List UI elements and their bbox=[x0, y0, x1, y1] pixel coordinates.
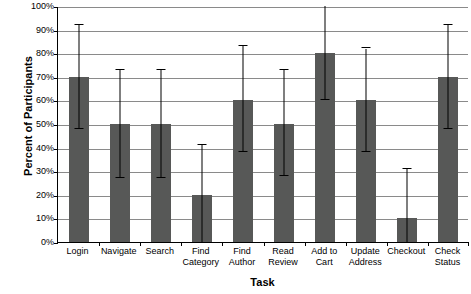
x-axis-tick-label: Read Review bbox=[263, 246, 304, 268]
error-bar bbox=[366, 49, 367, 153]
y-axis-tick-label: 60% bbox=[20, 96, 54, 105]
error-bar-cap-upper bbox=[115, 69, 124, 70]
bar-group bbox=[140, 7, 181, 242]
bar-group bbox=[387, 7, 428, 242]
x-axis-tick-label: Search bbox=[139, 246, 180, 257]
x-axis-tick-label: Add to Cart bbox=[304, 246, 345, 268]
y-axis-tick-labels: 0%10%20%30%40%50%60%70%80%90%100% bbox=[18, 0, 54, 294]
x-axis-tick-label: Check Status bbox=[427, 246, 468, 268]
bar-group bbox=[264, 7, 305, 242]
y-axis-tick-label: 0% bbox=[20, 238, 54, 247]
error-bar-cap-lower bbox=[115, 177, 124, 178]
bar-group bbox=[99, 7, 140, 242]
error-bar-cap-upper bbox=[156, 69, 165, 70]
error-bar bbox=[160, 70, 161, 179]
error-bar bbox=[448, 25, 449, 129]
x-axis-tick-label: Update Address bbox=[345, 246, 386, 268]
bar-group bbox=[428, 7, 469, 242]
x-axis-tick-label: Find Author bbox=[221, 246, 262, 268]
x-axis-tick-mark bbox=[468, 242, 469, 246]
bar-group bbox=[222, 7, 263, 242]
x-axis-tick-label: Find Category bbox=[180, 246, 221, 268]
error-bar bbox=[119, 70, 120, 179]
error-bar-cap-lower bbox=[321, 99, 330, 100]
plot-area bbox=[57, 7, 468, 243]
error-bar-cap-upper bbox=[238, 45, 247, 46]
error-bar-cap-lower bbox=[238, 151, 247, 152]
x-axis-tick-label: Navigate bbox=[98, 246, 139, 257]
error-bar-cap-lower bbox=[74, 128, 83, 129]
y-axis-tick-label: 90% bbox=[20, 26, 54, 35]
error-bar-cap-lower bbox=[444, 128, 453, 129]
error-bar-cap-upper bbox=[362, 47, 371, 48]
bar-group bbox=[346, 7, 387, 242]
bar-group bbox=[58, 7, 99, 242]
y-axis-tick-label: 20% bbox=[20, 191, 54, 200]
error-bar bbox=[284, 70, 285, 176]
error-bar bbox=[201, 145, 202, 242]
y-axis-tick-label: 40% bbox=[20, 144, 54, 153]
error-bar bbox=[325, 6, 326, 100]
error-bar-cap-upper bbox=[74, 24, 83, 25]
y-axis-tick-label: 50% bbox=[20, 120, 54, 129]
y-axis-tick-label: 10% bbox=[20, 214, 54, 223]
error-bar-cap-lower bbox=[156, 177, 165, 178]
error-bar-cap-lower bbox=[362, 151, 371, 152]
y-axis-tick-mark bbox=[54, 243, 58, 244]
y-axis-tick-label: 80% bbox=[20, 49, 54, 58]
y-axis-tick-label: 70% bbox=[20, 73, 54, 82]
x-axis-title: Task bbox=[57, 276, 468, 288]
x-axis-tick-label: Login bbox=[57, 246, 98, 257]
bar-chart-figure: Percent of Participants 0%10%20%30%40%50… bbox=[0, 0, 471, 294]
error-bar-cap-upper bbox=[444, 24, 453, 25]
error-bar bbox=[78, 25, 79, 129]
y-axis-tick-label: 30% bbox=[20, 167, 54, 176]
x-axis-tick-label: Checkout bbox=[386, 246, 427, 257]
error-bar-cap-upper bbox=[280, 69, 289, 70]
bar-group bbox=[181, 7, 222, 242]
error-bar bbox=[407, 169, 408, 242]
error-bar-cap-upper bbox=[403, 168, 412, 169]
y-axis-tick-label: 100% bbox=[20, 2, 54, 11]
x-axis-tick-labels: LoginNavigateSearchFind CategoryFind Aut… bbox=[57, 246, 468, 280]
error-bar-cap-upper bbox=[197, 144, 206, 145]
error-bar-cap-lower bbox=[280, 175, 289, 176]
error-bar bbox=[242, 46, 243, 152]
bar-group bbox=[305, 7, 346, 242]
